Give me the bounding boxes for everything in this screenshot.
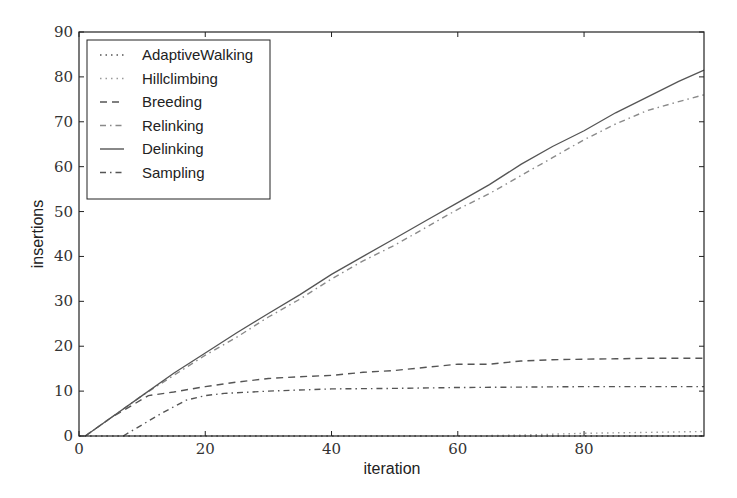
y-tick-label: 30 <box>54 292 73 310</box>
y-axis-label: insertions <box>29 200 46 268</box>
legend-label-adaptivewalking: AdaptiveWalking <box>142 46 253 63</box>
legend-label-delinking: Delinking <box>142 140 204 157</box>
legend: AdaptiveWalkingHillclimbingBreedingRelin… <box>87 40 270 199</box>
line-chart: 0204060800102030405060708090 iteration i… <box>0 0 737 498</box>
y-tick-label: 10 <box>54 382 73 400</box>
legend-label-relinking: Relinking <box>142 117 204 134</box>
x-tick-label: 40 <box>322 440 341 458</box>
series-hillclimbing <box>79 432 704 437</box>
y-tick-label: 70 <box>54 113 73 131</box>
x-tick-label: 0 <box>74 440 84 458</box>
y-tick-label: 0 <box>63 427 73 445</box>
y-tick-label: 50 <box>54 203 73 221</box>
legend-label-sampling: Sampling <box>142 164 205 181</box>
legend-label-hillclimbing: Hillclimbing <box>142 70 218 87</box>
series-sampling <box>123 387 704 436</box>
y-tick-label: 60 <box>54 158 73 176</box>
y-tick-label: 20 <box>54 337 73 355</box>
y-tick-label: 40 <box>54 247 73 265</box>
x-tick-label: 60 <box>448 440 467 458</box>
y-tick-label: 80 <box>54 68 73 86</box>
y-tick-label: 90 <box>54 23 73 41</box>
x-axis-label: iteration <box>364 460 421 477</box>
x-tick-label: 20 <box>196 440 215 458</box>
legend-label-breeding: Breeding <box>142 93 202 110</box>
x-tick-label: 80 <box>575 440 594 458</box>
